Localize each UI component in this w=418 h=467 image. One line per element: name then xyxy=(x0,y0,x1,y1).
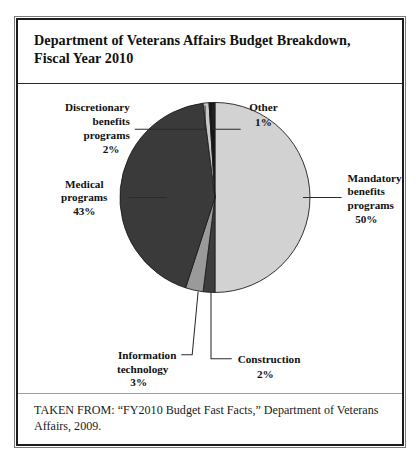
pie-label-infotech-percent: 3% xyxy=(130,376,147,388)
pie-label-medical-line1: Medical xyxy=(65,178,103,190)
pie-label-mandatory-line1: Mandatory xyxy=(348,172,402,184)
pie-label-construction: Construction 2% xyxy=(238,353,301,380)
leader-line-information-technology xyxy=(181,291,198,354)
pie-label-medical-line2: programs xyxy=(61,191,108,203)
pie-label-other-percent: 1% xyxy=(255,116,272,128)
pie-label-mandatory-percent: 50% xyxy=(355,213,377,225)
pie-label-discretionary: Discretionary benefits programs 2% xyxy=(65,101,131,155)
pie-label-mandatory-line3: programs xyxy=(348,199,395,211)
pie-label-other-line1: Other xyxy=(249,101,278,113)
figure-frame: Department of Veterans Affairs Budget Br… xyxy=(14,16,406,448)
pie-label-infotech-line1: Information xyxy=(118,349,177,361)
pie-label-discretionary-line3: programs xyxy=(83,129,130,141)
pie-label-construction-line1: Construction xyxy=(238,353,301,365)
pie-slice-mandatory-benefits-programs[interactable] xyxy=(215,102,310,292)
title-block: Department of Veterans Affairs Budget Br… xyxy=(18,20,402,77)
pie-label-mandatory-line2: benefits xyxy=(348,185,386,197)
pie-label-infotech-line2: technology xyxy=(117,363,169,375)
leader-line-construction xyxy=(211,292,232,358)
pie-label-medical-percent: 43% xyxy=(73,205,95,217)
pie-label-discretionary-percent: 2% xyxy=(103,143,120,155)
source-caption: TAKEN FROM: “FY2010 Budget Fast Facts,” … xyxy=(34,402,386,434)
pie-label-information-technology: Information technology 3% xyxy=(117,349,177,389)
pie-label-discretionary-line2: benefits xyxy=(93,115,131,127)
pie-chart-svg: Discretionary benefits programs 2% Other… xyxy=(18,84,402,400)
pie-chart-plot-area: Discretionary benefits programs 2% Other… xyxy=(18,84,402,400)
pie-label-construction-percent: 2% xyxy=(257,368,274,380)
pie-label-mandatory: Mandatory benefits programs 50% xyxy=(348,172,402,226)
page-title: Department of Veterans Affairs Budget Br… xyxy=(34,31,386,68)
pie-label-medical: Medical programs 43% xyxy=(61,178,108,218)
caption-block: TAKEN FROM: “FY2010 Budget Fast Facts,” … xyxy=(18,393,402,444)
pie-label-discretionary-line1: Discretionary xyxy=(65,101,130,113)
figure-inner: Department of Veterans Affairs Budget Br… xyxy=(16,18,404,446)
